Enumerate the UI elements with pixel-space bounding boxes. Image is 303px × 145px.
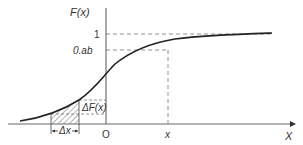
origin-label: O <box>102 129 110 140</box>
cdf-diagram: F(x) 1 0.ab ΔF(x) Δx O x X <box>0 0 303 145</box>
cdf-curve <box>20 33 272 121</box>
x-axis-arrow-icon <box>290 121 296 127</box>
delta-x-arrowhead-right-icon <box>75 130 78 133</box>
y-tick-value: 0.ab <box>73 45 93 56</box>
x-axis-label: X <box>284 130 293 142</box>
delta-x-arrowhead-left-icon <box>52 130 55 133</box>
delta-f-label: ΔF(x) <box>81 102 106 113</box>
delta-x-label: Δx <box>58 125 72 136</box>
x-tick-label: x <box>164 129 171 140</box>
y-tick-one: 1 <box>94 29 100 40</box>
y-axis-label: F(x) <box>70 6 90 18</box>
